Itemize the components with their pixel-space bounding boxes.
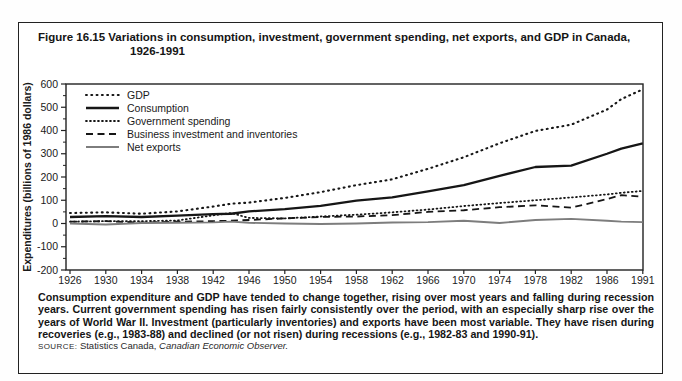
source-line: SOURCE: Statistics Canada, Canadian Econ… bbox=[38, 340, 288, 351]
x-tick-label: 1946 bbox=[237, 274, 261, 286]
legend-label-5: Net exports bbox=[127, 141, 181, 153]
y-tick-label: 200 bbox=[40, 171, 58, 183]
figure-caption: Consumption expenditure and GDP have ten… bbox=[38, 291, 654, 340]
x-tick-label: 1942 bbox=[202, 274, 226, 286]
y-axis-title: Expenditures (billions of 1986 dollars) bbox=[21, 82, 33, 272]
x-tick-label: 1938 bbox=[166, 274, 190, 286]
y-tick-label: 600 bbox=[40, 78, 58, 90]
y-tick-label: 400 bbox=[40, 124, 58, 136]
figure-panel: Figure 16.15 Variations in consumption, … bbox=[0, 0, 682, 381]
legend-label-1: GDP bbox=[127, 89, 150, 101]
x-tick-label: 1966 bbox=[416, 274, 440, 286]
x-tick-label: 1950 bbox=[273, 274, 297, 286]
y-tick-label: 500 bbox=[40, 101, 58, 113]
x-tick-label: 1974 bbox=[488, 274, 512, 286]
legend-label-3: Government spending bbox=[127, 115, 230, 127]
source-publication: Canadian Economic Observer. bbox=[159, 340, 288, 351]
y-tick-label: -200 bbox=[37, 264, 58, 276]
x-tick-label: 1970 bbox=[452, 274, 476, 286]
legend-label-4: Business investment and inventories bbox=[127, 128, 297, 140]
legend-label-2: Consumption bbox=[127, 102, 189, 114]
x-tick-label: 1991 bbox=[631, 274, 655, 286]
x-tick-label: 1930 bbox=[94, 274, 118, 286]
x-tick-label: 1962 bbox=[381, 274, 405, 286]
y-tick-label: 300 bbox=[40, 147, 58, 159]
x-tick-label: 1986 bbox=[595, 274, 619, 286]
y-tick-label: -100 bbox=[37, 240, 58, 252]
x-tick-label: 1934 bbox=[130, 274, 154, 286]
y-tick-label: 100 bbox=[40, 194, 58, 206]
source-label: SOURCE: bbox=[38, 342, 77, 351]
y-tick-label: 0 bbox=[52, 217, 58, 229]
x-tick-label: 1958 bbox=[345, 274, 369, 286]
source-org: Statistics Canada, bbox=[77, 340, 159, 351]
x-tick-label: 1954 bbox=[309, 274, 333, 286]
x-tick-label: 1982 bbox=[560, 274, 584, 286]
x-tick-label: 1926 bbox=[58, 274, 82, 286]
x-tick-label: 1978 bbox=[524, 274, 548, 286]
